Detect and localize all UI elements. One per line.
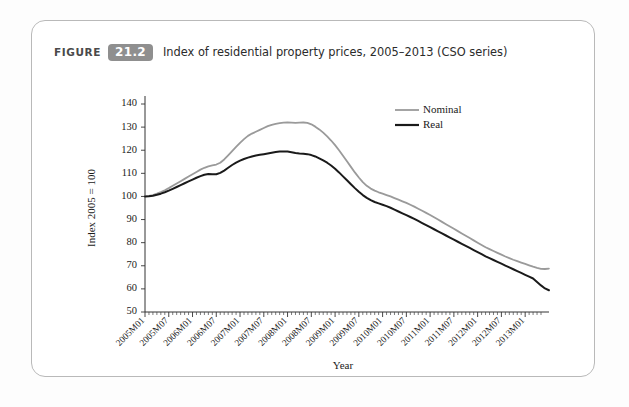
y-tick-label: 100 [121,190,137,201]
figure-caption: FIGURE 21.2 Index of residential propert… [54,41,507,63]
legend-label-nominal: Nominal [423,103,462,115]
series-line-nominal [145,122,549,269]
figure-label: FIGURE [54,46,101,58]
x-axis: 2005M012005M072006M012006M072007M012007M… [114,312,549,348]
y-axis-title: Index 2005 = 100 [85,169,97,247]
figure-card: FIGURE 21.2 Index of residential propert… [31,20,595,377]
y-tick-label: 90 [127,213,138,224]
y-tick-label: 80 [127,236,138,247]
figure-caption-text: Index of residential property prices, 20… [163,45,508,59]
y-tick-label: 70 [127,259,138,270]
y-tick-label: 110 [122,167,137,178]
y-tick-label: 120 [121,144,137,155]
y-tick-label: 50 [127,305,138,316]
y-axis: 5060708090100110120130140 [121,96,145,316]
line-chart: 5060708090100110120130140 2005M012005M07… [32,69,596,374]
chart-series [145,122,549,290]
figure-page: FIGURE 21.2 Index of residential propert… [0,0,629,407]
x-axis-title: Year [333,359,354,371]
y-tick-label: 140 [121,97,137,108]
y-tick-label: 130 [121,121,137,132]
chart-area: 5060708090100110120130140 2005M012005M07… [32,69,596,374]
chart-legend: NominalReal [395,103,462,130]
figure-number-badge: 21.2 [108,44,153,61]
series-line-real [145,151,549,290]
y-tick-label: 60 [127,282,138,293]
legend-label-real: Real [423,118,443,130]
